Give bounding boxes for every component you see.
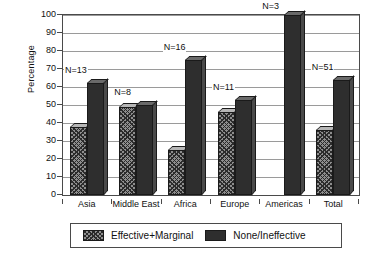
y-axis-tick-label: 20 bbox=[16, 154, 56, 163]
bar-none-ineffective bbox=[185, 60, 202, 195]
bar-front-face bbox=[333, 80, 350, 195]
legend-swatch-effective-marginal bbox=[83, 230, 104, 241]
bar-side-face bbox=[153, 100, 157, 195]
bar-front-face bbox=[316, 130, 333, 195]
y-axis-tick-label: 80 bbox=[16, 46, 56, 55]
y-axis-tick-mark bbox=[57, 86, 62, 87]
bar-front-face bbox=[235, 100, 252, 195]
x-axis-tick-label: Total bbox=[309, 199, 358, 209]
x-axis-tick-mark bbox=[62, 199, 63, 204]
y-axis-tick-mark bbox=[57, 140, 62, 141]
bar-effective-marginal bbox=[316, 130, 333, 195]
x-axis-tick-label: Americas bbox=[259, 199, 308, 209]
y-axis-tick-mark bbox=[57, 194, 62, 195]
bar-front-face bbox=[136, 105, 153, 195]
bar-annotation: N=11 bbox=[212, 83, 235, 92]
y-axis-tick-mark bbox=[57, 158, 62, 159]
bar-none-ineffective bbox=[333, 80, 350, 195]
y-axis-tick-label: 70 bbox=[16, 64, 56, 73]
bar-front-face bbox=[168, 150, 185, 195]
y-axis-tick-label: 10 bbox=[16, 172, 56, 181]
bar-effective-marginal bbox=[218, 112, 235, 195]
y-axis-tick-label: 50 bbox=[16, 100, 56, 109]
y-axis-tick-mark bbox=[57, 176, 62, 177]
bar-effective-marginal bbox=[168, 150, 185, 195]
bar-chart: Percentage 0102030405060708090100 AsiaMi… bbox=[0, 0, 389, 265]
legend-label-none-ineffective: None/Ineffective bbox=[233, 230, 305, 241]
y-axis-tick-mark bbox=[57, 14, 62, 15]
legend-item-effective-marginal: Effective+Marginal bbox=[83, 230, 193, 241]
y-axis-tick-label: 30 bbox=[16, 136, 56, 145]
bar-front-face bbox=[284, 15, 301, 195]
plot-area bbox=[62, 14, 360, 196]
bar-side-face bbox=[104, 79, 108, 195]
y-axis-tick-mark bbox=[57, 104, 62, 105]
bar-side-face bbox=[202, 55, 206, 195]
y-axis-tick-label: 90 bbox=[16, 28, 56, 37]
bar-group bbox=[63, 15, 112, 195]
y-axis-tick-label: 40 bbox=[16, 118, 56, 127]
y-axis-tick-mark bbox=[57, 50, 62, 51]
bar-group bbox=[260, 15, 309, 195]
bar-annotation: N=51 bbox=[311, 63, 335, 72]
bar-group bbox=[211, 15, 260, 195]
x-axis-tick-mark bbox=[259, 199, 260, 204]
legend-swatch-none-ineffective bbox=[205, 230, 226, 241]
chart-legend: Effective+Marginal None/Ineffective bbox=[70, 223, 342, 248]
legend-item-none-ineffective: None/Ineffective bbox=[205, 230, 305, 241]
bar-front-face bbox=[119, 107, 136, 195]
bar-effective-marginal bbox=[70, 127, 87, 195]
bar-none-ineffective bbox=[235, 100, 252, 195]
x-axis-tick-mark bbox=[111, 199, 112, 204]
x-axis-tick-label: Africa bbox=[161, 199, 210, 209]
bar-front-face bbox=[218, 112, 235, 195]
x-axis-tick-mark bbox=[161, 199, 162, 204]
bar-group bbox=[112, 15, 161, 195]
bar-annotation: N=16 bbox=[163, 43, 187, 52]
x-axis-labels: AsiaMiddle EastAfricaEuropeAmericasTotal bbox=[62, 199, 360, 213]
bar-annotation: N=13 bbox=[64, 66, 88, 75]
bar-none-ineffective bbox=[284, 15, 301, 195]
bar-annotation: N=3 bbox=[261, 2, 280, 11]
bar-none-ineffective bbox=[136, 105, 153, 195]
bar-none-ineffective bbox=[87, 83, 104, 195]
bar-effective-marginal bbox=[119, 107, 136, 195]
bar-front-face bbox=[185, 60, 202, 195]
x-axis-tick-label: Middle East bbox=[111, 199, 160, 209]
bar-front-face bbox=[87, 83, 104, 195]
x-axis-tick-label: Europe bbox=[210, 199, 259, 209]
y-axis-tick-label: 60 bbox=[16, 82, 56, 91]
y-axis-tick-mark bbox=[57, 32, 62, 33]
legend-label-effective-marginal: Effective+Marginal bbox=[111, 230, 193, 241]
bar-side-face bbox=[301, 10, 305, 195]
x-axis-tick-mark bbox=[309, 199, 310, 204]
y-axis-tick-label: 0 bbox=[16, 190, 56, 199]
bar-front-face bbox=[70, 127, 87, 195]
x-axis-tick-mark bbox=[358, 199, 359, 204]
x-axis-tick-mark bbox=[210, 199, 211, 204]
y-axis-tick-label: 100 bbox=[16, 10, 56, 19]
y-axis-tick-mark bbox=[57, 122, 62, 123]
bar-side-face bbox=[350, 75, 354, 195]
bar-side-face bbox=[252, 95, 256, 195]
x-axis-tick-label: Asia bbox=[62, 199, 111, 209]
y-axis-tick-mark bbox=[57, 68, 62, 69]
bar-annotation: N=8 bbox=[113, 88, 132, 97]
bar-group bbox=[310, 15, 359, 195]
